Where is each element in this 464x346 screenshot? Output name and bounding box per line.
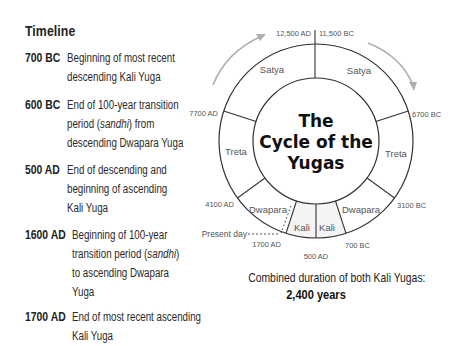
divider-treta-dwapara-right: [367, 178, 395, 198]
present-day-label: Present day: [202, 229, 248, 239]
label-1700-ad: 1700 AD: [252, 240, 281, 249]
ascending-arrow: [213, 36, 262, 85]
label-6700-bc: 6700 BC: [412, 110, 442, 119]
diagram-title-line-2: Cycle of the: [259, 132, 373, 152]
label-11500-bc: 11,500 BC: [319, 29, 354, 38]
label-12500-ad: 12,500 AD: [276, 29, 312, 38]
segment-kali-left: Kali: [294, 222, 310, 233]
segment-dwapara-right: Dwapara: [342, 204, 381, 215]
caption-total: 2,400 years: [240, 287, 393, 302]
segment-treta-right: Treta: [385, 148, 408, 159]
segment-kali-right: Kali: [319, 222, 335, 233]
label-700-bc: 700 BC: [345, 241, 371, 250]
divider-treta-dwapara-left: [238, 178, 266, 198]
diagram-title-line-1: The: [298, 111, 333, 131]
label-500-ad: 500 AD: [304, 252, 329, 261]
diagram-title-line-3: Yugas: [287, 153, 345, 173]
caption-text: Combined duration of both Kali Yugas:: [248, 270, 425, 285]
segment-dwapara-left: Dwapara: [249, 204, 288, 215]
label-7700-ad: 7700 AD: [189, 109, 218, 118]
arrowhead-icon: [409, 82, 417, 91]
label-3100-bc: 3100 BC: [397, 201, 427, 210]
label-4100-ad: 4100 AD: [205, 200, 234, 209]
segment-satya-right: Satya: [347, 65, 372, 76]
caption: Combined duration of both Kali Yugas: 2,…: [226, 268, 406, 302]
divider-satya-treta-right: [376, 111, 408, 122]
segment-treta-left: Treta: [225, 146, 248, 157]
divider-satya-treta-left: [224, 111, 256, 122]
segment-satya-left: Satya: [260, 64, 285, 75]
